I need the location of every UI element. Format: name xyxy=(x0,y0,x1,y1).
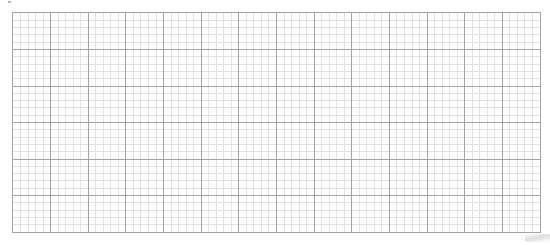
graph-paper xyxy=(12,12,541,233)
page-curl-shadow xyxy=(525,234,550,242)
grid-lines xyxy=(13,13,540,232)
scan-artifact xyxy=(8,1,11,3)
page xyxy=(0,0,550,245)
